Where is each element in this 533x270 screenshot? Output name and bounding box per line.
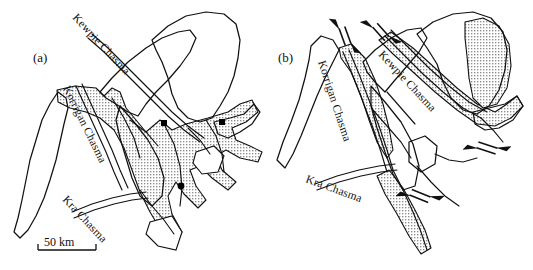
panel-a-tag: (a) (33, 50, 47, 65)
kewpie-chasma-label-a: Kewpie Chasma (70, 11, 133, 77)
scale-bar-label: 50 km (44, 235, 75, 249)
figure-root: (a) Kewpie Chasma Korrigan Chasma Kra Ch… (0, 0, 533, 270)
site-marker-2 (219, 119, 225, 125)
strike-slip-arrow-korrigan (339, 27, 351, 46)
panel-b: (b) Korrigan Chasma Kewpie Chasma Kra Ch… (267, 0, 533, 270)
strike-slip-arrow-east (477, 142, 498, 154)
panel-b-tag: (b) (278, 50, 293, 65)
site-marker-3 (178, 183, 185, 190)
strike-slip-arrow-south (410, 189, 431, 202)
korrigan-chasma-label-b: Korrigan Chasma (315, 59, 353, 143)
panel-a: (a) Kewpie Chasma Korrigan Chasma Kra Ch… (0, 0, 267, 270)
site-marker-1 (161, 120, 167, 126)
